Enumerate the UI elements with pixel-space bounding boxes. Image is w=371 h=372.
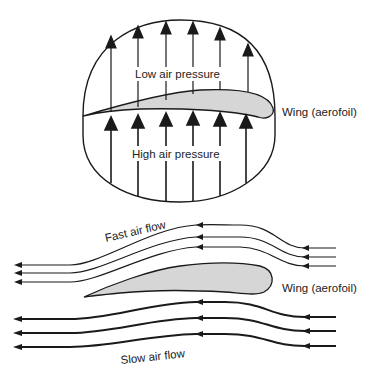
arrow-head-left (196, 244, 203, 250)
arrow-head-left (196, 222, 203, 228)
arrow-head-left (302, 328, 310, 334)
fast-airflow-label: Fast air flow (104, 218, 168, 244)
wing-aerofoil-bottom (84, 263, 272, 297)
arrow-head-left (302, 314, 310, 320)
arrow-head-left (196, 234, 203, 240)
wing-label-bottom: Wing (aerofoil) (282, 282, 357, 294)
arrow-head (160, 113, 172, 126)
arrow-head-left (302, 343, 310, 349)
arrow-head-left (302, 263, 309, 269)
slow-flow-line (17, 334, 336, 347)
arrow-head-left (14, 262, 22, 268)
arrow-head (240, 115, 252, 128)
slow-airflow-lines (17, 302, 336, 347)
wing-label-top: Wing (aerofoil) (282, 106, 357, 118)
high-pressure-label: High air pressure (132, 148, 220, 160)
low-pressure-label: Low air pressure (135, 68, 220, 80)
arrow-head (133, 26, 143, 38)
arrow-head (214, 113, 226, 126)
aerofoil-diagram: Low air pressure High air pressure Wing … (0, 0, 371, 372)
pressure-panel: Low air pressure High air pressure Wing … (83, 20, 357, 202)
arrow-head-left (302, 245, 309, 251)
arrow-head (187, 112, 199, 125)
airflow-panel: Fast air flow Slow air flow Wing (aerofo… (13, 218, 357, 366)
slow-flow-line (17, 318, 336, 333)
slow-flow-line (17, 302, 336, 319)
arrow-head-left (302, 254, 309, 260)
arrow-head (188, 22, 198, 34)
arrow-head-left (13, 316, 22, 322)
arrow-head-left (195, 299, 203, 305)
arrow-head (106, 36, 116, 48)
arrow-head-left (13, 344, 22, 350)
arrow-head-left (14, 270, 22, 276)
arrow-head (132, 115, 144, 128)
arrow-head-left (195, 331, 203, 337)
slow-airflow-label: Slow air flow (120, 347, 186, 366)
arrow-head (215, 28, 225, 40)
arrow-head (105, 117, 117, 130)
arrow-head (161, 22, 171, 34)
arrow-head-left (13, 330, 22, 336)
arrow-head-left (14, 279, 22, 285)
arrow-head (243, 44, 253, 56)
arrow-head-left (195, 315, 203, 321)
fast-flow-line (17, 225, 336, 265)
